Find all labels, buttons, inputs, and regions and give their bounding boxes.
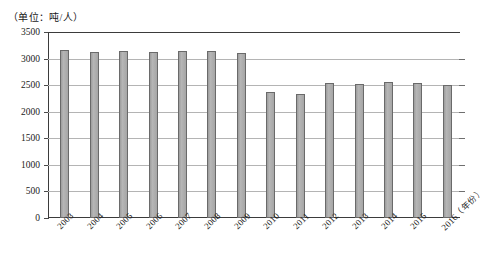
gridline [48, 85, 460, 86]
bar [90, 52, 99, 218]
y-axis-tick-labels: 0500100015002000250030003500 [0, 32, 44, 218]
gridline [48, 191, 460, 192]
y-axis-tick-right [459, 59, 465, 60]
gridline [48, 59, 460, 60]
bar [60, 50, 69, 218]
plot-top-border [48, 32, 460, 33]
y-axis-tick-right [459, 191, 465, 192]
y-axis-tick-right [459, 138, 465, 139]
bar [237, 53, 246, 218]
bar [384, 82, 393, 218]
bar-chart: （单位：吨/人） 0500100015002000250030003500 20… [0, 0, 500, 267]
bar [413, 83, 422, 218]
bar [355, 84, 364, 218]
y-axis-tick-label: 3000 [21, 54, 40, 64]
y-axis-tick-right [459, 112, 465, 113]
y-axis-line [48, 32, 49, 218]
y-axis-tick-right [459, 85, 465, 86]
y-axis-tick-right [459, 165, 465, 166]
gridline [48, 112, 460, 113]
bar [207, 51, 216, 218]
y-axis-tick-label: 500 [26, 186, 40, 196]
y-axis-tick-label: 3500 [21, 27, 40, 37]
y-axis-tick-label: 2000 [21, 107, 40, 117]
y-axis-tick-label: 2500 [21, 80, 40, 90]
unit-caption: （单位：吨/人） [8, 9, 83, 24]
bar [266, 92, 275, 218]
bar [119, 51, 128, 218]
y-axis-tick-label: 1000 [21, 160, 40, 170]
bar [443, 85, 452, 218]
gridline [48, 138, 460, 139]
bar [296, 94, 305, 218]
gridline [48, 165, 460, 166]
bar [325, 83, 334, 218]
y-axis-tick-label: 1500 [21, 133, 40, 143]
bar [149, 52, 158, 218]
bar [178, 51, 187, 218]
plot-area [48, 32, 460, 218]
y-axis-tick-label: 0 [35, 213, 40, 223]
x-axis-tick-labels: 2003200420052006200720082009201020112012… [48, 218, 460, 267]
